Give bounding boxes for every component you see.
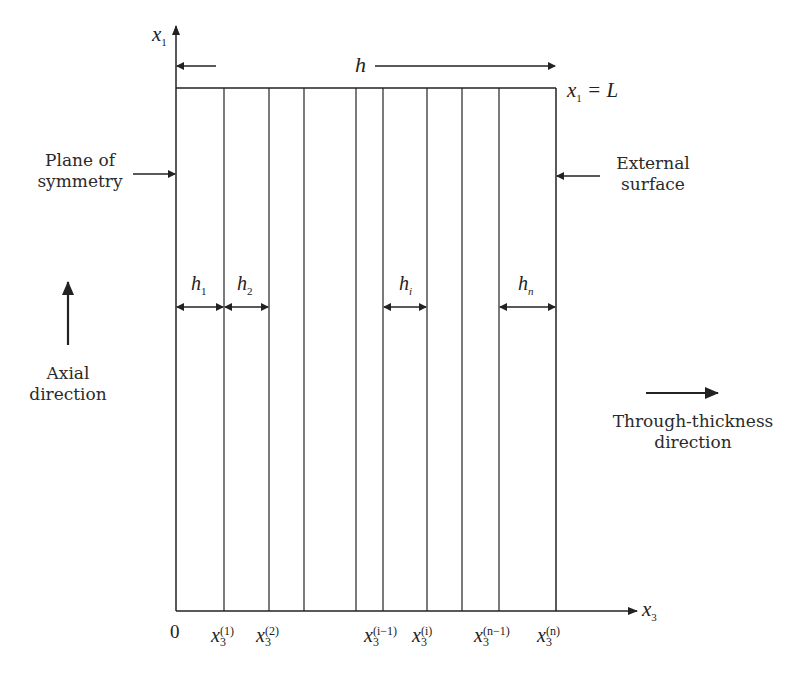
x1-axis-label: x1 xyxy=(152,22,167,48)
layered-slab-diagram xyxy=(0,0,797,673)
origin-label: 0 xyxy=(170,621,180,643)
h2-label: h2 xyxy=(237,272,253,297)
interface-label-i: x(i)3 xyxy=(412,624,432,648)
top-boundary-label: x1 = L xyxy=(567,78,618,104)
interface-label-i-minus-1: x(i−1)3 xyxy=(364,624,397,648)
hn-label: hn xyxy=(518,272,534,297)
interface-label-2: x(2)3 xyxy=(256,624,279,648)
plane-of-symmetry-label: Plane of symmetry xyxy=(30,150,130,192)
x3-axis-label: x3 xyxy=(642,597,657,623)
interface-label-1: x(1)3 xyxy=(211,624,234,648)
external-surface-label: External surface xyxy=(608,153,698,195)
h1-label: h1 xyxy=(191,272,207,297)
hi-label: hi xyxy=(399,272,412,297)
axial-direction-label: Axial direction xyxy=(28,363,108,405)
layer-interfaces xyxy=(224,88,556,611)
interface-label-n-minus-1: x(n−1)3 xyxy=(474,624,510,648)
thickness-h-label: h xyxy=(355,52,366,78)
through-thickness-direction-label: Through-thickness direction xyxy=(598,411,788,453)
interface-label-n: x(n)3 xyxy=(537,624,560,648)
